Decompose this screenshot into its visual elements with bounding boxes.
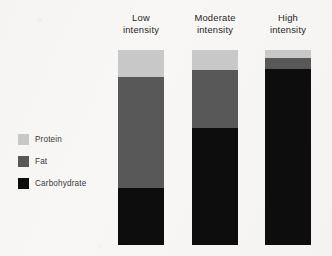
protein-swatch xyxy=(18,134,29,145)
legend-label-fat: Fat xyxy=(35,157,47,166)
bar-column-low-intensity: Low intensity xyxy=(107,12,175,35)
bar-column-moderate-intensity: Moderate intensity xyxy=(181,12,249,35)
bar-segment-carbohydrate[interactable] xyxy=(118,188,164,245)
legend-label-protein: Protein xyxy=(35,135,62,144)
column-title-high-intensity: High intensity xyxy=(254,12,322,35)
legend-item-protein[interactable]: Protein xyxy=(18,128,114,150)
bar-segment-fat[interactable] xyxy=(265,58,311,70)
stacked-bar-high-intensity[interactable] xyxy=(265,50,311,245)
chart-legend: Protein Fat Carbohydrate xyxy=(18,128,114,194)
bar-column-high-intensity: High intensity xyxy=(254,12,322,35)
fat-swatch xyxy=(18,156,29,167)
bar-segment-protein[interactable] xyxy=(265,50,311,58)
bar-segment-protein[interactable] xyxy=(192,50,238,70)
legend-item-carbohydrate[interactable]: Carbohydrate xyxy=(18,172,114,194)
column-title-moderate-intensity: Moderate intensity xyxy=(181,12,249,35)
bar-segment-carbohydrate[interactable] xyxy=(265,69,311,245)
bar-segment-fat[interactable] xyxy=(118,77,164,188)
legend-item-fat[interactable]: Fat xyxy=(18,150,114,172)
bar-segment-fat[interactable] xyxy=(192,70,238,129)
carbohydrate-swatch xyxy=(18,178,29,189)
legend-label-carbohydrate: Carbohydrate xyxy=(35,179,86,188)
fuel-utilization-stacked-bar-figure: Protein Fat Carbohydrate Low intensity M… xyxy=(0,0,332,256)
stacked-bar-low-intensity[interactable] xyxy=(118,50,164,245)
bar-segment-protein[interactable] xyxy=(118,50,164,77)
bar-segment-carbohydrate[interactable] xyxy=(192,128,238,245)
column-title-low-intensity: Low intensity xyxy=(107,12,175,35)
stacked-bar-moderate-intensity[interactable] xyxy=(192,50,238,245)
